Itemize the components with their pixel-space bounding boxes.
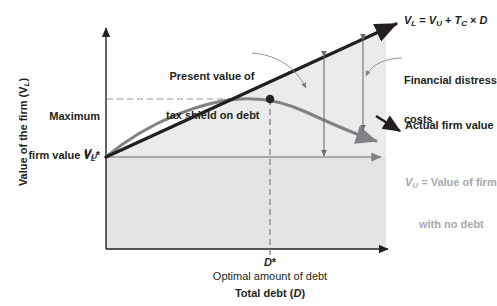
equation-equals: = xyxy=(416,14,429,26)
vu-intercept-subscript: U xyxy=(91,152,97,161)
x-axis-title: Total debt (D) xyxy=(180,287,360,300)
unlevered-rest: = Value of firm xyxy=(418,176,497,188)
unlevered-firm-value-label: VU = Value of firm with no debt xyxy=(405,150,493,257)
maximum-firm-value-line1: Maximum xyxy=(18,110,100,123)
unlevered-value-shading xyxy=(106,157,386,249)
x-axis-title-tail: ) xyxy=(301,287,305,299)
y-axis-title-tail: ) xyxy=(17,78,29,82)
levered-value-equation: VL = VU + TC × D xyxy=(404,14,487,30)
tax-shield-line1: Present value of xyxy=(166,70,258,83)
optimal-debt-tick-label: D* xyxy=(250,256,290,269)
optimal-debt-symbol: D xyxy=(264,256,272,268)
actual-firm-value-label: Actual firm value xyxy=(405,119,494,132)
equation-plus: + xyxy=(442,14,455,26)
optimal-amount-of-debt-label: Optimal amount of debt xyxy=(180,270,360,283)
financial-distress-line1: Financial distress xyxy=(404,74,496,87)
unlevered-firm-value-line2: with no debt xyxy=(405,218,493,231)
equation-d: D xyxy=(480,14,488,26)
maximum-firm-value-prefix: firm value xyxy=(28,149,83,161)
equation-times: × xyxy=(467,14,480,26)
maximum-firm-value-label: Maximum firm value VL* xyxy=(18,84,100,191)
maximum-firm-value-point xyxy=(266,95,274,103)
optimal-debt-star: * xyxy=(272,256,276,268)
financial-distress-annotation: Financial distress costs xyxy=(404,48,496,152)
tax-shield-line2: tax shield on debt xyxy=(166,109,258,122)
x-axis-title-text: Total debt ( xyxy=(235,287,293,299)
vu-intercept-label: VU xyxy=(84,147,97,163)
tax-shield-annotation: Present value of tax shield on debt xyxy=(166,44,258,148)
unlevered-firm-value-line1: VU = Value of firm xyxy=(405,176,493,192)
